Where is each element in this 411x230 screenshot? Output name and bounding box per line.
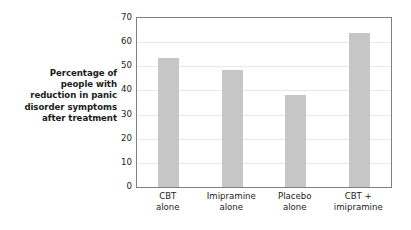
y-axis-tick-label: 50 <box>113 61 132 70</box>
y-axis-tick-label: 0 <box>113 182 132 191</box>
x-axis-tick-label: CBTalone <box>156 191 180 213</box>
x-axis-tick-labels: CBTaloneImipraminealonePlaceboaloneCBT +… <box>136 191 392 227</box>
y-axis-title-line: Percentage of <box>4 68 117 79</box>
bar-chart-figure: Percentage of people with reduction in p… <box>0 0 411 230</box>
y-axis-tick-label: 30 <box>113 109 132 118</box>
y-axis-tick-labels: 010203040506070 <box>113 17 132 187</box>
x-axis-tick-label: Placeboalone <box>278 191 312 213</box>
y-axis-title-line: disorder symptoms <box>4 102 117 113</box>
y-axis-title-line: people with <box>4 79 117 90</box>
y-axis-title-line: after treatment <box>4 113 117 124</box>
x-axis-tick-label-line: alone <box>207 202 256 213</box>
x-axis-tick-label-line: alone <box>156 202 180 213</box>
y-axis-tick-label: 20 <box>113 133 132 142</box>
y-axis-tick-label: 40 <box>113 85 132 94</box>
y-axis-title-line: reduction in panic <box>4 90 117 101</box>
x-axis-tick-label-line: alone <box>278 202 312 213</box>
x-axis-tick-label-line: CBT + <box>334 191 383 202</box>
bar <box>349 33 370 188</box>
bar <box>222 70 243 187</box>
x-axis-tick-label-line: CBT <box>156 191 180 202</box>
x-axis-tick-label-line: imipramine <box>334 202 383 213</box>
bar <box>285 95 306 187</box>
y-axis-title: Percentage of people with reduction in p… <box>4 68 117 124</box>
x-axis-tick-label: CBT +imipramine <box>334 191 383 213</box>
plot-area <box>136 17 392 188</box>
x-axis-tick-label-line: Imipramine <box>207 191 256 202</box>
y-axis-tick-label: 10 <box>113 158 132 167</box>
x-axis-tick-label-line: Placebo <box>278 191 312 202</box>
bar <box>158 58 179 187</box>
y-axis-tick-label: 60 <box>113 37 132 46</box>
y-axis-tick-label: 70 <box>113 13 132 22</box>
x-axis-tick-label: Imipraminealone <box>207 191 256 213</box>
